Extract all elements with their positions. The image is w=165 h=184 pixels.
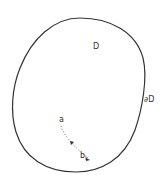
point-bk-label: bk [80, 152, 89, 161]
region-label: D [93, 43, 99, 51]
point-k-subscript: k [85, 154, 88, 161]
boundary-label: ∂D [144, 96, 154, 104]
diagram-canvas: D ∂D a bk [0, 0, 165, 184]
region-boundary [13, 18, 145, 172]
arrow-mid-icon [70, 141, 74, 145]
point-a-label: a [59, 116, 64, 124]
